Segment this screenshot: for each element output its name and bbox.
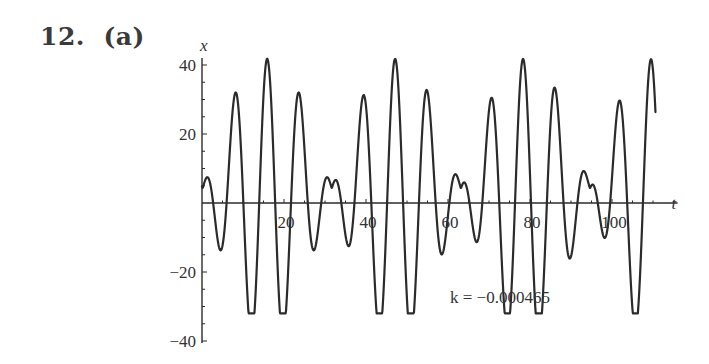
oscillation-curve [202, 59, 655, 314]
x-tick-label: 20 [278, 213, 295, 232]
x-tick-label: 40 [360, 213, 377, 232]
y-axis-label: x [199, 36, 208, 55]
y-tick-label: 40 [179, 56, 196, 75]
x-tick-label: 100 [601, 213, 627, 232]
y-tick-label: 20 [179, 125, 196, 144]
k-annotation: k = −0.000465 [450, 288, 550, 307]
y-tick-label: −20 [169, 263, 196, 282]
y-tick-label: −40 [169, 332, 196, 351]
axes [202, 58, 678, 343]
x-tick-label: 60 [442, 213, 459, 232]
chart: 20406080100−40−202040 t x k = −0.000465 [0, 0, 709, 364]
